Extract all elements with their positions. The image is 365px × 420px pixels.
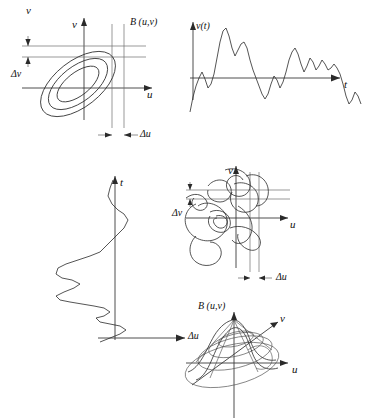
technical-figure: v v u B (u,v) Δv Δu v(t) t: [0, 0, 365, 420]
panel-bottom-right-b-axis-label: B (u,v): [198, 300, 225, 311]
panel-bottom-right-v-axis-label: v: [280, 312, 285, 324]
panel-bottom-right-graphics: [0, 0, 365, 420]
panel-bottom-right-u-axis-label: u: [292, 363, 298, 375]
